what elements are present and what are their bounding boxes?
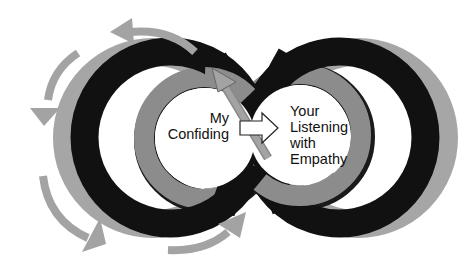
right-label-line-1: Your — [290, 103, 370, 119]
right-label-line-4: Empathy — [290, 151, 370, 167]
left-label-line-1: My — [150, 110, 229, 126]
right-label-line-2: Listening — [290, 119, 370, 135]
left-label-line-2: Confiding — [150, 126, 229, 142]
left-loop-label: My Confiding — [150, 110, 229, 142]
infinity-loop-diagram — [0, 0, 476, 271]
right-label-line-3: with — [290, 135, 370, 151]
arrowhead-top-icon — [110, 18, 134, 44]
right-loop-label: Your Listening with Empathy — [290, 103, 370, 167]
